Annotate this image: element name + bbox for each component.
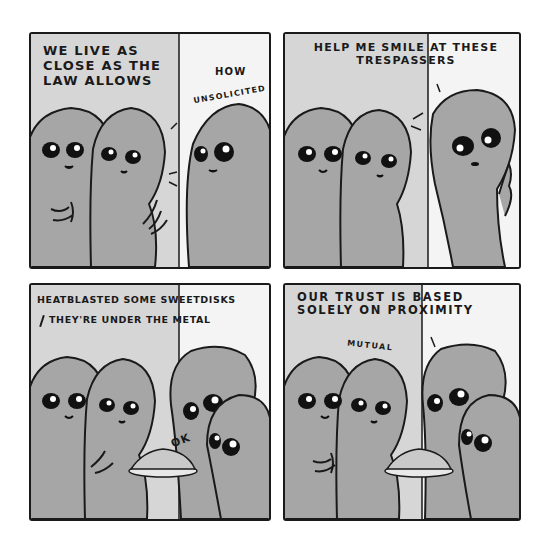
panel-3-caption-line1: Heatblasted some sweetdisks xyxy=(37,295,236,306)
panel-1-caption-left: We live as close as the law allows xyxy=(43,44,161,89)
panel-4-artwork xyxy=(285,285,519,519)
panel-2-artwork xyxy=(285,34,519,267)
comic-panel-1: We live as close as the law allows How U… xyxy=(29,32,271,269)
panel-1-caption-how: How xyxy=(215,66,247,78)
comic-panel-4: Our trust is based solely on proximity M… xyxy=(283,283,521,521)
panel-3-caption-line2: They're under the metal xyxy=(49,315,211,326)
comic-panel-2: Help me smile at these trespassers xyxy=(283,32,521,269)
panel-2-caption: Help me smile at these trespassers xyxy=(299,42,513,67)
comic-panel-3: Heatblasted some sweetdisks They're unde… xyxy=(29,283,271,521)
panel-4-caption: Our trust is based solely on proximity xyxy=(297,291,474,317)
